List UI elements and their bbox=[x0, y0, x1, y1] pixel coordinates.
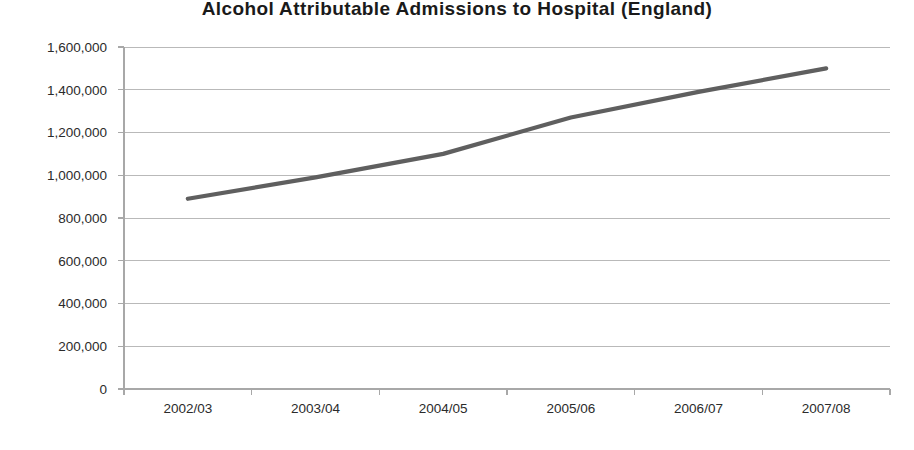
ytick-labels-group: 0200,000400,000600,000800,0001,000,0001,… bbox=[47, 40, 107, 397]
line-chart-plot: 0200,000400,000600,000800,0001,000,0001,… bbox=[0, 0, 914, 450]
y-axis-tick-label: 800,000 bbox=[58, 211, 107, 226]
x-axis-tick-label: 2003/04 bbox=[291, 401, 340, 416]
chart-figure: Alcohol Attributable Admissions to Hospi… bbox=[0, 0, 914, 450]
x-axis-tick-label: 2002/03 bbox=[163, 401, 212, 416]
y-axis-tick-label: 1,600,000 bbox=[47, 40, 107, 55]
y-axis-tick-label: 1,400,000 bbox=[47, 83, 107, 98]
x-axis-tick-label: 2004/05 bbox=[419, 401, 468, 416]
y-axis-tick-label: 200,000 bbox=[58, 339, 107, 354]
y-axis-tick-label: 1,000,000 bbox=[47, 168, 107, 183]
gridlines-group bbox=[124, 47, 890, 389]
series-group bbox=[188, 68, 826, 198]
xtick-labels-group: 2002/032003/042004/052005/062006/072007/… bbox=[163, 401, 850, 416]
xtick-marks-group bbox=[124, 389, 890, 395]
y-axis-tick-label: 1,200,000 bbox=[47, 125, 107, 140]
y-axis-tick-label: 400,000 bbox=[58, 296, 107, 311]
x-axis-tick-label: 2005/06 bbox=[546, 401, 595, 416]
y-axis-tick-label: 600,000 bbox=[58, 254, 107, 269]
x-axis-tick-label: 2007/08 bbox=[802, 401, 851, 416]
y-axis-tick-label: 0 bbox=[99, 382, 107, 397]
series-line bbox=[188, 68, 826, 198]
x-axis-tick-label: 2006/07 bbox=[674, 401, 723, 416]
ytick-marks-group bbox=[118, 47, 124, 389]
